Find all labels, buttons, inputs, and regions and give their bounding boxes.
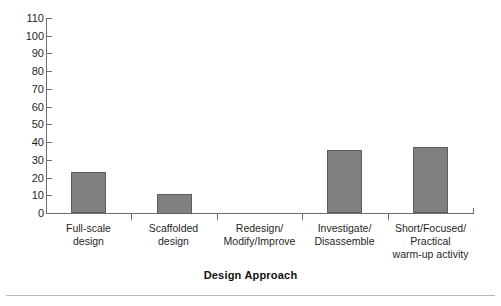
bar bbox=[157, 194, 192, 214]
y-tick bbox=[47, 89, 52, 90]
bar bbox=[327, 150, 362, 213]
x-tick bbox=[388, 214, 389, 220]
x-tick-label-line: warm-up activity bbox=[388, 248, 473, 261]
y-tick-label: 30 bbox=[10, 155, 44, 166]
y-tick bbox=[47, 213, 52, 214]
y-tick-label: 20 bbox=[10, 173, 44, 184]
x-axis-right-cap bbox=[473, 208, 474, 214]
x-tick-label-line: Full-scale bbox=[46, 222, 131, 235]
y-tick bbox=[47, 178, 52, 179]
x-tick bbox=[217, 214, 218, 220]
x-tick-label-line: design bbox=[46, 235, 131, 248]
y-tick bbox=[47, 53, 52, 54]
y-tick bbox=[47, 71, 52, 72]
bar bbox=[71, 172, 106, 213]
y-tick bbox=[47, 36, 52, 37]
y-tick bbox=[47, 107, 52, 108]
x-tick-label: Full-scaledesign bbox=[46, 222, 131, 248]
y-tick bbox=[47, 160, 52, 161]
x-tick-label-line: Scaffolded bbox=[131, 222, 216, 235]
y-tick-label: 50 bbox=[10, 119, 44, 130]
x-tick-label: Short/Focused/Practicalwarm-up activity bbox=[388, 222, 473, 261]
x-tick-label-line: Practical bbox=[388, 235, 473, 248]
y-tick-label: 0 bbox=[10, 208, 44, 219]
y-tick-label: 90 bbox=[10, 48, 44, 59]
x-tick-label-line: Redesign/ bbox=[217, 222, 302, 235]
bar bbox=[413, 147, 448, 213]
y-tick-label: 110 bbox=[10, 13, 44, 24]
x-tick-label: Scaffoldeddesign bbox=[131, 222, 216, 248]
y-tick bbox=[47, 195, 52, 196]
x-tick-label-line: Investigate/ bbox=[302, 222, 387, 235]
y-tick bbox=[47, 124, 52, 125]
bar-chart: 1101009080706050403020100 Full-scaledesi… bbox=[0, 0, 501, 306]
y-tick bbox=[47, 142, 52, 143]
x-tick-label-line: Disassemble bbox=[302, 235, 387, 248]
y-tick bbox=[47, 18, 52, 19]
x-axis-line bbox=[46, 213, 474, 214]
x-tick-label: Investigate/Disassemble bbox=[302, 222, 387, 248]
bottom-divider bbox=[6, 295, 495, 296]
x-tick bbox=[131, 214, 132, 220]
x-tick-label-line: design bbox=[131, 235, 216, 248]
y-tick-label: 40 bbox=[10, 137, 44, 148]
y-tick-label: 100 bbox=[10, 31, 44, 42]
x-tick-label-line: Short/Focused/ bbox=[388, 222, 473, 235]
y-tick-label: 10 bbox=[10, 190, 44, 201]
y-tick-label: 60 bbox=[10, 102, 44, 113]
y-tick-label: 80 bbox=[10, 66, 44, 77]
x-tick-label-line: Modify/Improve bbox=[217, 235, 302, 248]
x-tick-label: Redesign/Modify/Improve bbox=[217, 222, 302, 248]
x-tick bbox=[302, 214, 303, 220]
y-tick-label: 70 bbox=[10, 84, 44, 95]
y-axis-line bbox=[46, 18, 47, 214]
x-axis-title: Design Approach bbox=[0, 269, 501, 281]
